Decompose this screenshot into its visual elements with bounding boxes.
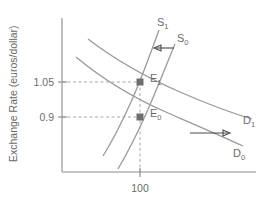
curve-label-s0-text: S: [177, 32, 184, 44]
equilibrium-label-e0-subscript: 0: [157, 113, 161, 122]
supply-curve-s1: [103, 30, 159, 156]
x-tick-label-100: 100: [131, 182, 149, 194]
curve-label-s1: S1: [157, 16, 169, 31]
curve-label-s0: S0: [177, 32, 189, 47]
equilibrium-marker-e0: [137, 114, 144, 121]
equilibrium-label-e1-text: E: [150, 72, 157, 84]
y-tick-label-105: 1.05: [34, 76, 55, 88]
curve-label-s1-subscript: 1: [164, 22, 168, 31]
curve-label-d1-text: D: [243, 114, 251, 126]
equilibrium-label-e0-text: E: [150, 107, 157, 119]
curve-label-d0-text: D: [233, 147, 241, 159]
equilibrium-marker-e1: [137, 79, 144, 86]
curve-label-d1: D1: [243, 114, 255, 129]
demand-curve-d1: [88, 39, 252, 119]
curve-label-d0-subscript: 0: [241, 153, 245, 162]
curve-label-d0: D0: [233, 147, 245, 162]
equilibrium-label-e1: E1: [150, 72, 162, 87]
curve-label-s1-text: S: [157, 16, 164, 28]
equilibrium-label-e1-subscript: 1: [157, 78, 161, 87]
curve-label-s0-subscript: 0: [184, 38, 188, 47]
supply-shift-arrow: [154, 45, 174, 51]
y-axis-title: Exchange Rate (euros/dollar): [7, 25, 19, 162]
y-tick-label-09: 0.9: [39, 111, 54, 123]
curve-label-d1-subscript: 1: [251, 120, 255, 129]
exchange-rate-supply-demand-chart: Exchange Rate (euros/dollar) 1.05 0.9 10…: [0, 0, 271, 200]
